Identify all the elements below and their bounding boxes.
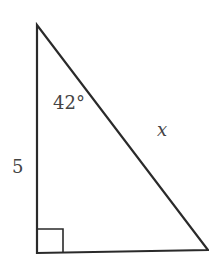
triangle-diagram: 42° x 5 (0, 0, 209, 267)
angle-label: 42° (53, 92, 85, 113)
right-angle-marker (37, 229, 63, 253)
side-length-label: 5 (12, 156, 23, 177)
triangle (37, 25, 208, 253)
hypotenuse-label: x (157, 119, 167, 140)
